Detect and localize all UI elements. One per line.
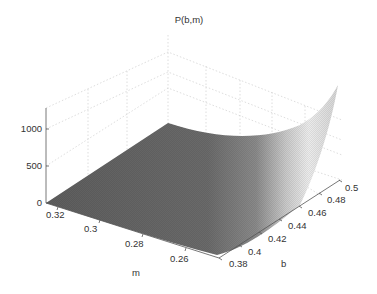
z-axis: 1000 500 0 bbox=[21, 108, 49, 208]
b-tick-label: 0.44 bbox=[288, 220, 307, 231]
z-tick-label: 500 bbox=[26, 160, 42, 171]
b-tick-label: 0.4 bbox=[248, 246, 261, 257]
chart-title: P(b,m) bbox=[175, 14, 204, 25]
z-tick-label: 0 bbox=[37, 197, 42, 208]
b-tick-label: 0.46 bbox=[308, 207, 327, 218]
m-axis-label: m bbox=[132, 267, 140, 278]
b-tick-label: 0.42 bbox=[268, 233, 287, 244]
surface-plot-figure: 1000 500 0 0.32 0.3 0.28 0.26 m 0.38 0.4… bbox=[0, 0, 377, 294]
b-tick-label: 0.48 bbox=[327, 194, 346, 205]
b-tick-label: 0.38 bbox=[229, 258, 248, 269]
m-tick-label: 0.32 bbox=[46, 209, 65, 220]
m-tick-label: 0.26 bbox=[170, 253, 189, 264]
b-tick-label: 0.5 bbox=[345, 182, 358, 193]
b-axis-label: b bbox=[281, 258, 286, 269]
m-tick-label: 0.28 bbox=[125, 238, 144, 249]
plot-canvas: 1000 500 0 0.32 0.3 0.28 0.26 m 0.38 0.4… bbox=[0, 0, 377, 294]
m-tick-label: 0.3 bbox=[84, 223, 97, 234]
z-tick-label: 1000 bbox=[21, 123, 42, 134]
